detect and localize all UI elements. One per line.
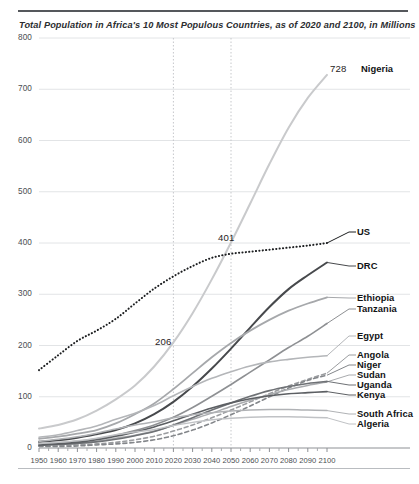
leader-line-us (327, 232, 356, 243)
chart-page: Total Population in Africa's 10 Most Pop… (0, 0, 419, 484)
y-axis-tick-label: 200 (6, 341, 32, 350)
y-axis-tick-label: 100 (6, 392, 32, 401)
series-label-tanzania: Tanzania (357, 304, 397, 314)
y-axis-tick-label: 600 (6, 136, 32, 145)
bottom-divider (18, 468, 410, 469)
series-line-tanzania (39, 323, 327, 443)
value-annotation-401: 401 (218, 232, 235, 243)
series-label-us: US (357, 227, 370, 237)
series-label-drc: DRC (357, 261, 377, 271)
series-line-nigeria (39, 75, 327, 429)
x-axis-tick-label: 2100 (312, 456, 342, 465)
series-label-kenya: Kenya (357, 390, 385, 400)
leader-line-south-africa (327, 411, 356, 414)
leader-line-sudan (327, 375, 356, 382)
leader-line-tanzania (327, 309, 356, 323)
leader-line-ethiopia (327, 297, 356, 298)
leader-line-uganda (327, 381, 356, 385)
leader-line-kenya (327, 392, 356, 395)
y-axis-tick-label: 800 (6, 33, 32, 42)
y-axis-tick-label: 300 (6, 289, 32, 298)
y-axis-tick-label: 400 (6, 238, 32, 247)
series-label-egypt: Egypt (357, 331, 383, 341)
y-axis-tick-label: 0 (6, 443, 32, 452)
leader-line-drc (327, 262, 356, 266)
y-axis-tick-label: 700 (6, 84, 32, 93)
series-line-drc (39, 262, 327, 441)
series-line-south-africa (39, 410, 327, 442)
value-annotation-206: 206 (155, 336, 172, 347)
series-label-ethiopia: Ethiopia (357, 293, 394, 303)
leader-line-algeria (327, 418, 356, 424)
leader-line-angola (327, 355, 356, 373)
value-annotation-728: 728 (330, 63, 347, 74)
series-label-nigeria: Nigeria (361, 64, 393, 74)
y-axis-tick-label: 500 (6, 187, 32, 196)
series-label-algeria: Algeria (357, 419, 389, 429)
